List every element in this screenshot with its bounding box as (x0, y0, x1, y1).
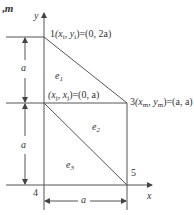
node-1-value: )=(0, 2a) (76, 28, 111, 39)
node-2-label: (xj, xj)=(0, a) (48, 90, 99, 102)
element-e2-label: e2 (92, 122, 100, 134)
node-2-y: , x (58, 89, 67, 100)
node-1-y: , y (65, 28, 74, 39)
e1-sub: 1 (59, 75, 63, 83)
dim-upper-a-label: a (21, 63, 26, 73)
node-3-value: )=(a, a) (163, 96, 193, 107)
element-e1-label: e1 (55, 71, 63, 83)
header-fragment: ,m (2, 3, 13, 14)
y-axis-label: y (34, 11, 38, 21)
node-2-x: (x (48, 89, 56, 100)
node-3-x: (x (135, 96, 143, 107)
x-axis-label: x (147, 191, 151, 201)
dim-lower-a-label: a (21, 140, 26, 150)
node-3-label: 3(xm, ym)=(a, a) (130, 97, 193, 109)
node-4-label: 4 (33, 188, 38, 198)
node-1-x: (x (55, 28, 63, 39)
header-var: m (5, 2, 14, 14)
node-2-value: )=(0, a) (69, 89, 99, 100)
node-3-y: , y (148, 96, 157, 107)
e3-sub: 3 (70, 164, 74, 172)
element-e3-label: e3 (66, 160, 74, 172)
node-1-label: 1(xi, yi)=(0, 2a) (50, 29, 111, 41)
dim-bottom-a-label: a (81, 195, 86, 205)
edge-2-5 (44, 103, 127, 185)
node-5-label: 5 (131, 168, 136, 178)
e2-sub: 2 (96, 126, 100, 134)
